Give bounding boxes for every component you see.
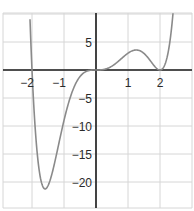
function-curve bbox=[30, 13, 173, 189]
x-tick-label: 2 bbox=[157, 76, 164, 90]
y-tick-labels: 5−5−10−15−20 bbox=[72, 36, 93, 190]
y-tick-label: −20 bbox=[72, 176, 93, 190]
y-tick-label: −10 bbox=[72, 120, 93, 134]
x-tick-label: −2 bbox=[20, 76, 34, 90]
y-tick-label: 5 bbox=[85, 36, 92, 50]
function-graph: −2−112 5−5−10−15−20 bbox=[0, 0, 194, 211]
y-tick-label: −15 bbox=[72, 148, 93, 162]
x-tick-labels: −2−112 bbox=[20, 76, 164, 90]
x-tick-label: −1 bbox=[52, 76, 66, 90]
y-tick-label: −5 bbox=[78, 92, 92, 106]
x-tick-label: 1 bbox=[125, 76, 132, 90]
